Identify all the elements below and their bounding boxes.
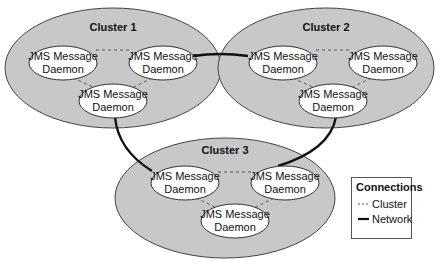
node-label-line1: JMS Message <box>150 170 220 182</box>
cluster-3-node-1: JMS Message Daemon <box>150 166 220 200</box>
cluster-3-title: Cluster 3 <box>201 144 248 156</box>
node-label-line2: Daemon <box>42 63 84 75</box>
cluster-1-node-1: JMS Message Daemon <box>28 46 98 80</box>
node-label-line2: Daemon <box>92 101 134 113</box>
node-label-line2: Daemon <box>262 63 304 75</box>
cluster-3-node-2: JMS Message Daemon <box>250 166 320 200</box>
node-label-line1: JMS Message <box>28 50 98 62</box>
node-label-line1: JMS Message <box>78 88 148 100</box>
node-label-line2: Daemon <box>164 183 206 195</box>
node-label-line1: JMS Message <box>298 88 368 100</box>
cluster-2-node-1: JMS Message Daemon <box>248 46 318 80</box>
legend-item-network: Network <box>372 213 413 225</box>
node-label-line2: Daemon <box>312 101 354 113</box>
legend: Connections Cluster Network <box>352 178 423 239</box>
cluster-2-title: Cluster 2 <box>302 21 349 33</box>
node-label-line2: Daemon <box>264 183 306 195</box>
cluster-1-node-2: JMS Message Daemon <box>128 46 198 80</box>
cluster-2-node-3: JMS Message Daemon <box>298 84 368 118</box>
cluster-1-node-3: JMS Message Daemon <box>78 84 148 118</box>
node-label-line1: JMS Message <box>348 50 418 62</box>
node-label-line1: JMS Message <box>200 208 270 220</box>
cluster-1-title: Cluster 1 <box>89 21 136 33</box>
diagram-canvas: Cluster 1 Cluster 2 Cluster 3 JMS Messag… <box>0 0 438 264</box>
legend-title: Connections <box>356 181 423 193</box>
node-label-line2: Daemon <box>142 63 184 75</box>
cluster-3-node-3: JMS Message Daemon <box>200 204 270 238</box>
node-label-line1: JMS Message <box>128 50 198 62</box>
node-label-line2: Daemon <box>214 221 256 233</box>
cluster-2-node-2: JMS Message Daemon <box>348 46 418 80</box>
node-label-line2: Daemon <box>362 63 404 75</box>
node-label-line1: JMS Message <box>250 170 320 182</box>
node-label-line1: JMS Message <box>248 50 318 62</box>
legend-item-cluster: Cluster <box>372 198 407 210</box>
